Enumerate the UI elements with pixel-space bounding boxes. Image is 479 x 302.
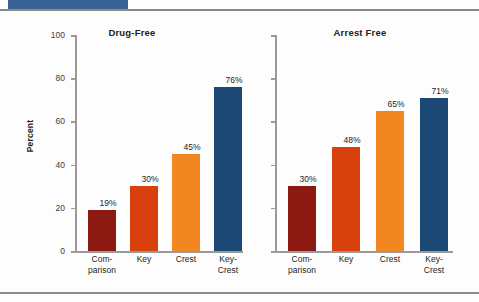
x-tick-label: Key-Crest (205, 254, 251, 275)
bar-rect: 19% (88, 210, 116, 251)
x-tick-label: Crest (367, 254, 413, 265)
bar-rect: 65% (376, 111, 404, 251)
bottom-divider-rule (0, 292, 479, 294)
figure-container: Drug-Free Percent 100806040200 19%30%45%… (0, 11, 479, 294)
bar-value-label: 30% (288, 174, 328, 186)
bar-group-drug-free: 19%30%45%76% (18, 11, 246, 294)
x-tick-label-line: Com- (79, 254, 125, 265)
bar-rect: 45% (172, 154, 200, 251)
bar-group-arrest-free: 30%48%65%71% (256, 11, 472, 294)
bar-value-label: 65% (376, 99, 416, 111)
x-tick-label-line: parison (279, 265, 325, 276)
panel-drug-free: Drug-Free Percent 100806040200 19%30%45%… (18, 11, 246, 294)
x-tick-label-line: parison (79, 265, 125, 276)
x-tick-label: Key-Crest (411, 254, 457, 275)
x-tick-label-line: Key (121, 254, 167, 265)
x-tick-label-line: Key- (205, 254, 251, 265)
x-tick-label: Key (121, 254, 167, 265)
bar-value-label: 19% (88, 198, 128, 210)
panel-arrest-free: Arrest Free 30%48%65%71% Com-parisonKeyC… (256, 11, 472, 294)
bar-value-label: 76% (214, 75, 254, 87)
x-tick-label: Crest (163, 254, 209, 265)
x-tick-label-line: Crest (367, 254, 413, 265)
x-tick-label-line: Com- (279, 254, 325, 265)
x-tick-label-line: Key- (411, 254, 457, 265)
x-tick-label-line: Crest (163, 254, 209, 265)
x-tick-label: Key (323, 254, 369, 265)
x-tick-label: Com-parison (79, 254, 125, 275)
bar-value-label: 45% (172, 142, 212, 154)
bar-rect: 30% (288, 186, 316, 251)
x-tick-label-line: Key (323, 254, 369, 265)
bar-rect: 76% (214, 87, 242, 251)
bar-value-label: 48% (332, 135, 372, 147)
x-tick-label: Com-parison (279, 254, 325, 275)
bar-value-label: 71% (420, 86, 460, 98)
bar-rect: 30% (130, 186, 158, 251)
bar-rect: 71% (420, 98, 448, 251)
x-tick-label-line: Crest (205, 265, 251, 276)
header-accent-bar (8, 0, 128, 9)
x-tick-label-line: Crest (411, 265, 457, 276)
bar-rect: 48% (332, 147, 360, 251)
bar-value-label: 30% (130, 174, 170, 186)
